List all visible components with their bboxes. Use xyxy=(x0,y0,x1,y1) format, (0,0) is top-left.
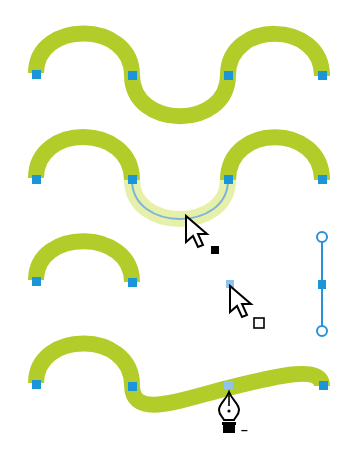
delete-anchor-pen-cursor-icon: – xyxy=(219,392,248,437)
selected-anchor-point[interactable] xyxy=(224,381,233,390)
anchor-point[interactable] xyxy=(128,175,137,184)
selected-segment[interactable] xyxy=(132,180,228,219)
handle-endpoint[interactable] xyxy=(317,326,327,336)
anchor-point[interactable] xyxy=(318,71,327,80)
anchor-point[interactable] xyxy=(32,70,41,79)
step-4-path: – xyxy=(32,343,328,437)
anchor-point[interactable] xyxy=(32,277,41,286)
anchor-point[interactable] xyxy=(128,278,137,287)
anchor-point[interactable] xyxy=(32,175,41,184)
anchor-point[interactable] xyxy=(319,381,328,390)
anchor-point[interactable] xyxy=(318,175,327,184)
minus-symbol: – xyxy=(241,423,248,437)
handle-endpoint[interactable] xyxy=(317,232,327,242)
anchor-point[interactable] xyxy=(128,382,137,391)
anchor-point[interactable] xyxy=(128,71,137,80)
path-editing-diagram: – xyxy=(0,0,357,463)
anchor-point[interactable] xyxy=(224,71,233,80)
direct-selection-hollow-cursor-icon xyxy=(230,286,264,328)
step-1-path xyxy=(32,33,327,116)
handle-anchor[interactable] xyxy=(318,280,326,289)
step-3-path xyxy=(32,232,327,336)
anchor-point[interactable] xyxy=(224,175,233,184)
direction-handle[interactable] xyxy=(317,232,327,336)
anchor-point[interactable] xyxy=(32,380,41,389)
